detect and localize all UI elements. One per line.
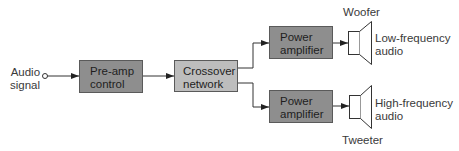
power-amplifier-low-block: Power amplifier — [269, 26, 333, 59]
input-terminal-icon — [43, 74, 48, 79]
crossover-network-block: Crossover network — [174, 60, 238, 92]
high-frequency-audio-label: High-frequency audio — [375, 97, 453, 123]
tweeter-speaker-icon — [350, 86, 372, 129]
audio-signal-label: Audio signal — [10, 66, 40, 92]
low-frequency-audio-label: Low-frequency audio — [375, 32, 450, 58]
tweeter-label: Tweeter — [342, 134, 383, 147]
power-amplifier-high-block: Power amplifier — [269, 90, 333, 123]
arrow-crossover-to-amp-low — [238, 43, 269, 68]
arrow-crossover-to-amp-high — [238, 83, 269, 107]
preamp-control-block: Pre-amp control — [79, 60, 143, 93]
woofer-label: Woofer — [343, 6, 380, 19]
woofer-speaker-icon — [349, 22, 372, 65]
